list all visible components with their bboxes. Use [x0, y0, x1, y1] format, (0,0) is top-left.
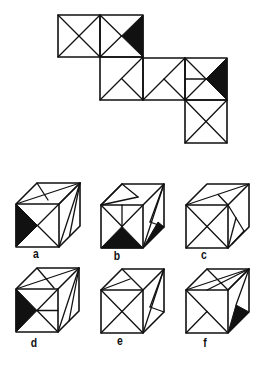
option-label-e: e: [114, 333, 125, 348]
net-square-6: [185, 100, 227, 143]
cube-option-f[interactable]: [186, 269, 249, 333]
net-square-1: [58, 15, 100, 57]
cube-option-b[interactable]: [101, 184, 164, 248]
option-label-f: f: [199, 335, 210, 350]
cube-option-d[interactable]: [16, 268, 79, 332]
option-label-b: b: [111, 248, 122, 263]
cube-option-e[interactable]: [101, 269, 164, 333]
cube-net: [58, 15, 227, 143]
net-square-5: [185, 58, 227, 100]
option-label-a: a: [30, 246, 41, 261]
net-square-2: [100, 15, 143, 57]
puzzle-figure: [0, 0, 260, 371]
cube-option-a[interactable]: [16, 183, 80, 247]
option-label-d: d: [28, 335, 39, 350]
net-square-3: [100, 57, 143, 100]
option-label-c: c: [198, 247, 209, 262]
net-square-4: [143, 58, 185, 100]
cube-option-c[interactable]: [186, 184, 249, 248]
